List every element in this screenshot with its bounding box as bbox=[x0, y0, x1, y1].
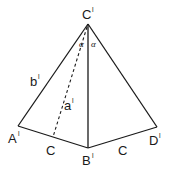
label-bottom-right-c: C bbox=[118, 143, 127, 158]
angle-alpha-right: α bbox=[91, 39, 96, 49]
svg-text:l: l bbox=[38, 73, 40, 80]
label-median-a: a l bbox=[64, 97, 74, 113]
svg-text:l: l bbox=[18, 130, 20, 137]
svg-text:l: l bbox=[92, 6, 94, 13]
svg-text:D: D bbox=[149, 133, 158, 148]
svg-text:l: l bbox=[92, 152, 94, 159]
svg-text:a: a bbox=[64, 98, 72, 113]
label-bottom-left-c: C bbox=[46, 143, 55, 158]
geometry-diagram: C l A l B l D l b l a l C C α α bbox=[0, 0, 169, 175]
svg-text:B: B bbox=[82, 153, 91, 168]
svg-text:l: l bbox=[72, 97, 74, 104]
label-right-vertex: D l bbox=[149, 132, 161, 148]
label-apex: C l bbox=[82, 6, 94, 22]
svg-text:A: A bbox=[8, 131, 17, 146]
svg-text:l: l bbox=[159, 132, 161, 139]
edge-apex-right bbox=[88, 24, 157, 127]
label-side-b: b l bbox=[30, 73, 40, 89]
svg-text:b: b bbox=[30, 74, 37, 89]
angle-alpha-left: α bbox=[79, 39, 84, 49]
svg-text:C: C bbox=[82, 7, 91, 22]
label-bottom-vertex: B l bbox=[82, 152, 94, 168]
label-left-vertex: A l bbox=[8, 130, 20, 146]
edge-apex-left bbox=[18, 24, 88, 126]
